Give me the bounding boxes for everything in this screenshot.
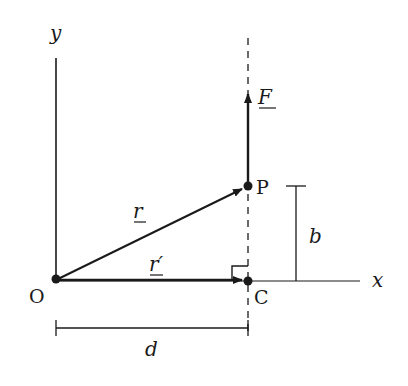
force-label: F (257, 85, 273, 109)
point-p-label: P (256, 176, 269, 198)
r-prime-label: r′ (149, 252, 164, 276)
x-axis-label: x (372, 268, 383, 292)
moment-diagram: y x r′ r F O P C b d (0, 0, 408, 386)
point-c (244, 277, 253, 286)
point-origin (52, 275, 61, 284)
point-c-label: C (254, 286, 269, 308)
point-p (244, 182, 253, 191)
b-dimension-label: b (309, 224, 322, 248)
origin-label: O (29, 285, 45, 307)
d-dimension-label: d (145, 337, 158, 361)
r-label: r (133, 199, 144, 223)
y-axis-label: y (49, 21, 62, 45)
